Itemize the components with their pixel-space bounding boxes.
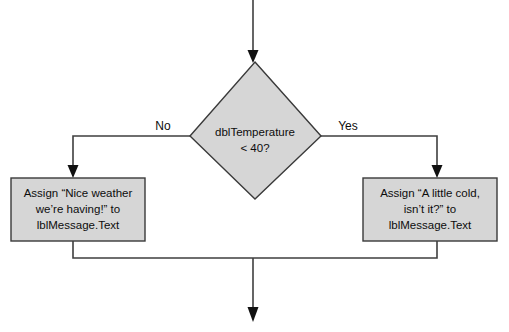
yes-branch-connector bbox=[321, 136, 437, 171]
yes-branch-label: Yes bbox=[338, 119, 358, 133]
right-box-line2: isn’t it?” to bbox=[404, 203, 456, 215]
left-box-line3: lblMessage.Text bbox=[37, 219, 120, 231]
right-box-line3: lblMessage.Text bbox=[389, 219, 472, 231]
decision-text-line1: dblTemperature bbox=[215, 126, 295, 138]
entry-arrowhead bbox=[248, 50, 259, 63]
no-branch-label: No bbox=[155, 119, 171, 133]
decision-text-line2: < 40? bbox=[240, 142, 269, 154]
left-box-line2: we’re having!” to bbox=[35, 203, 120, 215]
no-branch-connector bbox=[73, 136, 190, 171]
yes-branch-arrowhead bbox=[432, 165, 443, 178]
flowchart-svg: dblTemperature < 40? No Yes Assign “Nice… bbox=[0, 0, 509, 332]
no-branch-arrowhead bbox=[68, 165, 79, 178]
merge-connector bbox=[73, 241, 437, 258]
flowchart-canvas: dblTemperature < 40? No Yes Assign “Nice… bbox=[0, 0, 509, 332]
exit-arrowhead bbox=[248, 307, 259, 322]
left-box-line1: Assign “Nice weather bbox=[24, 187, 133, 199]
right-box-line1: Assign “A little cold, bbox=[380, 187, 480, 199]
